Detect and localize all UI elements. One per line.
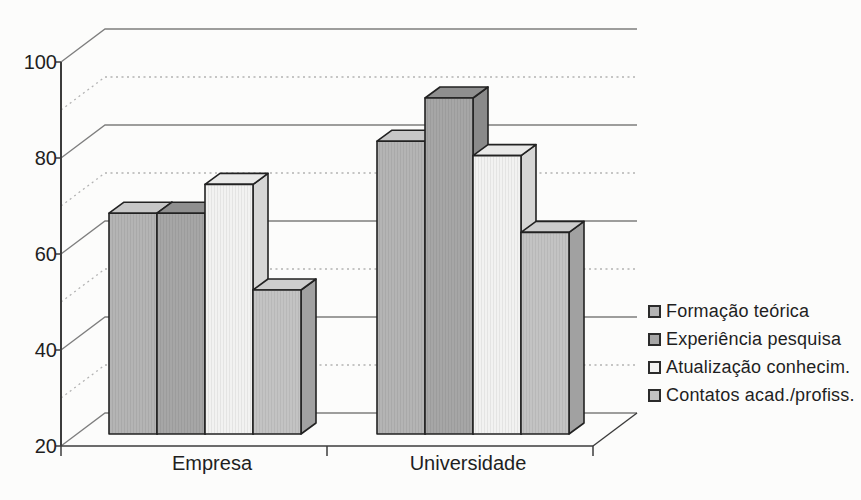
bar-texture — [206, 185, 252, 433]
bar-chart-3d: 20406080100EmpresaUniversidade — [0, 0, 861, 500]
major-gridline — [61, 125, 637, 158]
legend-swatch-formacao — [648, 305, 661, 318]
bar-texture — [110, 214, 156, 433]
bar-texture — [474, 157, 520, 433]
y-axis-label: 100 — [24, 51, 57, 73]
legend-label: Contatos acad./profiss. — [666, 385, 855, 406]
bar-texture — [426, 99, 472, 433]
legend-item: Contatos acad./profiss. — [648, 381, 855, 409]
y-axis-label: 80 — [35, 147, 57, 169]
legend-label: Formação teórica — [666, 301, 809, 322]
legend-swatch-experiencia — [648, 333, 661, 346]
legend-swatch-contatos — [648, 389, 661, 402]
legend-label: Atualização conhecim. — [666, 357, 850, 378]
legend-item: Formação teórica — [648, 297, 855, 325]
bar-side-c1-s3 — [569, 221, 584, 434]
x-axis-category-label: Empresa — [172, 452, 253, 474]
y-axis-label: 40 — [35, 339, 57, 361]
bar-texture — [522, 233, 568, 433]
y-axis-label: 60 — [35, 243, 57, 265]
bar-texture — [378, 142, 424, 433]
legend-label: Experiência pesquisa — [666, 329, 841, 350]
legend-item: Experiência pesquisa — [648, 325, 855, 353]
minor-gridline — [61, 173, 637, 206]
bar-texture — [254, 291, 300, 433]
major-gridline — [61, 29, 637, 62]
minor-gridline — [61, 77, 637, 110]
legend-swatch-atualizacao — [648, 361, 661, 374]
y-axis-label: 20 — [35, 435, 57, 457]
chart-canvas: 20406080100EmpresaUniversidade Formação … — [0, 0, 861, 500]
x-axis-category-label: Universidade — [410, 452, 527, 474]
legend: Formação teórica Experiência pesquisa At… — [648, 297, 855, 409]
bars — [109, 87, 584, 434]
bar-side-c0-s3 — [301, 279, 316, 434]
floor-right-edge — [593, 413, 637, 446]
legend-item: Atualização conhecim. — [648, 353, 855, 381]
bar-texture — [158, 214, 204, 433]
